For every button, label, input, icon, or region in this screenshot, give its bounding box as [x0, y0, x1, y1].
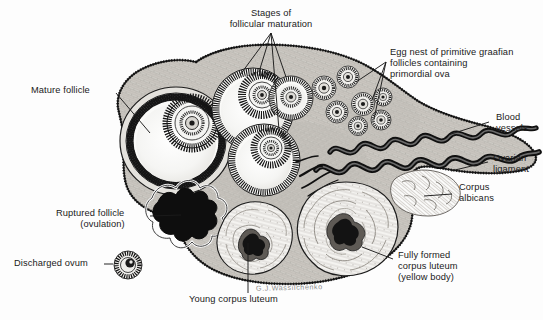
label-egg-nest-line1: Egg nest of primitive graafian [390, 47, 513, 58]
label-stages-line2: follicular maturation [196, 19, 346, 30]
primordial-follicle [337, 66, 359, 88]
label-discharged-ovum: Discharged ovum [14, 258, 88, 269]
maturing-follicle-small [269, 76, 313, 120]
label-fully-formed-line3: (yellow body) [398, 272, 454, 283]
label-egg-nest-line2: follicles containing [390, 58, 467, 69]
label-fully-formed-line2: corpus luteum [398, 261, 458, 272]
label-ovarian-line2: ligament [493, 164, 529, 175]
label-fully-formed-line1: Fully formed [398, 250, 450, 261]
label-young-corpus-luteum: Young corpus luteum [189, 294, 278, 305]
primordial-follicle [326, 101, 348, 123]
discharged-ovum [114, 251, 142, 279]
fully-formed-corpus-luteum [297, 182, 398, 276]
label-stages-line1: Stages of [216, 8, 326, 19]
label-corpus-albicans-line2: albicans [459, 193, 494, 204]
label-ruptured-line1: Ruptured follicle [56, 208, 124, 219]
label-mature-follicle: Mature follicle [31, 85, 90, 96]
primordial-follicle [374, 88, 392, 106]
maturing-follicle-lower [228, 124, 300, 196]
label-corpus-albicans-line1: Corpus [459, 182, 490, 193]
primordial-follicle [312, 76, 336, 100]
label-blood-line2: vessels [496, 123, 528, 134]
label-egg-nest-line3: primordial ova [390, 69, 450, 80]
label-ovarian-line1: Ovarian [493, 153, 526, 164]
primordial-follicle [352, 93, 375, 116]
artist-signature: G.J.Wassilchenko [256, 282, 323, 293]
label-ruptured-line2: (ovulation) [56, 219, 149, 230]
primordial-follicle [349, 117, 368, 136]
corpus-albicans [391, 170, 461, 216]
label-blood-line1: Blood [496, 112, 520, 123]
primordial-follicle [371, 110, 391, 130]
